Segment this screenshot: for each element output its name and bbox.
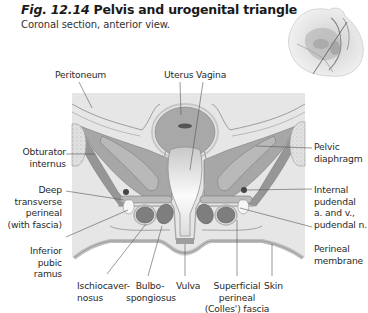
label-pelvic-diaphragm: Pelvic diaphragm <box>314 141 363 164</box>
vulva <box>176 238 194 244</box>
inferior-pubic-ramus-right <box>238 200 249 214</box>
label-vulva: Vulva <box>176 280 200 292</box>
label-peritoneum: Peritoneum <box>55 69 106 81</box>
label-perineal-membrane: Perineal membrane <box>314 243 363 266</box>
label-superficial-perineal-fascia: Superficial perineal (Colles') fascia <box>204 280 270 313</box>
label-deep-transverse-perineal: Deep transverse perineal (with fascia) <box>7 184 62 230</box>
label-obturator-internus: Obturator internus <box>22 146 66 169</box>
label-uterus: Uterus <box>164 69 193 81</box>
label-vagina: Vagina <box>196 69 226 81</box>
label-skin: Skin <box>264 280 283 292</box>
inferior-pubic-ramus-left <box>123 200 134 214</box>
internal-pudendal-left <box>123 189 129 195</box>
label-internal-pudendal: Internal pudendal a. and v., pudendal n. <box>314 184 367 230</box>
label-ischiocavernosus: Ischiocaver- nosus <box>77 280 130 303</box>
ischiocavernosus-left <box>136 207 154 223</box>
ischiocavernosus-right <box>217 207 235 223</box>
label-inferior-pubic-ramus: Inferior pubic ramus <box>30 245 62 280</box>
label-bulbospongiosus: Bulbo- spongiosus <box>126 280 174 303</box>
